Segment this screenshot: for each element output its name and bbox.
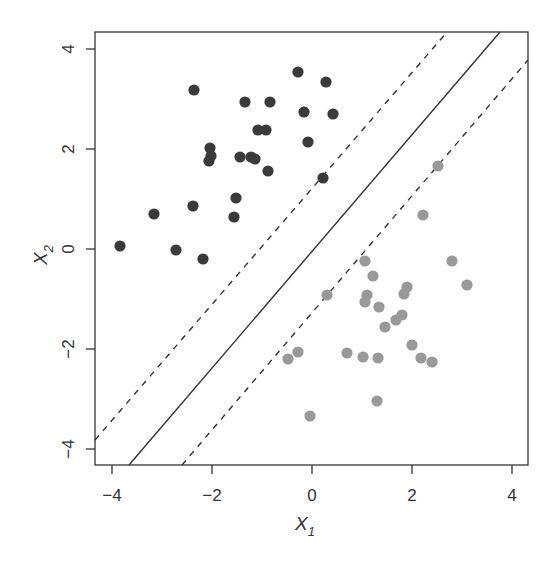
data-point — [379, 321, 390, 332]
data-point — [292, 66, 303, 77]
data-point — [302, 136, 313, 147]
data-point — [298, 106, 309, 117]
data-point — [282, 353, 293, 364]
x-axis-label: X1 — [294, 513, 315, 539]
data-point — [234, 151, 245, 162]
data-point — [357, 351, 368, 362]
data-point — [373, 301, 384, 312]
data-point — [148, 208, 159, 219]
hyperplane-lines — [95, 32, 528, 465]
y-axis: −4−2024 — [59, 44, 95, 458]
data-point — [390, 314, 401, 325]
y-axis-label: X2 — [30, 244, 56, 266]
data-point — [239, 96, 250, 107]
y-tick-label: 4 — [59, 44, 78, 53]
data-point — [372, 352, 383, 363]
data-point — [359, 296, 370, 307]
x-tick-label: −2 — [202, 486, 221, 505]
data-point — [197, 253, 208, 264]
data-point — [114, 240, 125, 251]
data-point — [341, 347, 352, 358]
data-point — [367, 270, 378, 281]
data-point — [170, 244, 181, 255]
data-point — [426, 356, 437, 367]
data-point — [417, 209, 428, 220]
data-point — [228, 211, 239, 222]
data-point — [304, 410, 315, 421]
plot-frame — [95, 32, 528, 465]
data-point — [262, 165, 273, 176]
data-point — [432, 160, 443, 171]
x-axis: −4−2024 — [102, 465, 516, 505]
data-point — [187, 200, 198, 211]
data-point — [446, 255, 457, 266]
data-point — [320, 76, 331, 87]
hyperplane-line — [129, 32, 500, 465]
data-point — [371, 395, 382, 406]
data-point — [327, 108, 338, 119]
y-tick-label: −2 — [59, 339, 78, 358]
data-point — [461, 279, 472, 290]
y-tick-label: 0 — [59, 244, 78, 253]
data-point — [321, 289, 332, 300]
data-point — [359, 255, 370, 266]
data-point — [260, 124, 271, 135]
x-tick-label: 2 — [407, 486, 416, 505]
x-tick-label: −4 — [102, 486, 121, 505]
scatter-chart: −4−2024 −4−2024 X1 X2 — [0, 0, 553, 561]
data-point — [249, 153, 260, 164]
y-tick-label: 2 — [59, 144, 78, 153]
data-point — [203, 155, 214, 166]
x-tick-label: 0 — [307, 486, 316, 505]
y-tick-label: −4 — [59, 439, 78, 458]
data-point — [415, 352, 426, 363]
data-point — [230, 192, 241, 203]
data-point — [406, 339, 417, 350]
data-point — [188, 84, 199, 95]
data-point — [264, 96, 275, 107]
data-points — [114, 66, 472, 421]
x-tick-label: 4 — [507, 486, 516, 505]
margin-line — [182, 60, 528, 465]
margin-line — [95, 32, 447, 440]
data-point — [317, 172, 328, 183]
data-point — [398, 288, 409, 299]
data-point — [292, 346, 303, 357]
